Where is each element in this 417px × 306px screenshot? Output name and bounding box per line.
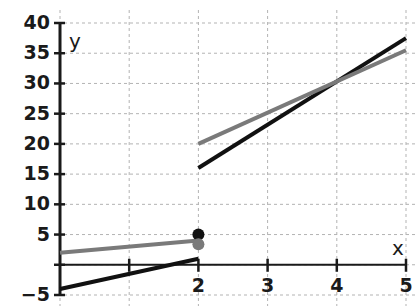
series-layer [60, 38, 406, 289]
y-tick-label: −5 [21, 285, 50, 304]
x-tick-label: 2 [183, 276, 213, 295]
y-tick-label: 20 [24, 134, 50, 153]
x-tick-label: 3 [253, 276, 283, 295]
gray-endpoint [192, 238, 204, 250]
x-tick-label: 5 [391, 276, 417, 295]
x-tick-label: 4 [322, 276, 352, 295]
y-tick-label: 10 [24, 194, 50, 213]
y-tick-label: 15 [24, 164, 50, 183]
x-axis-label: x [392, 238, 404, 258]
plot-area [0, 0, 417, 306]
black-upper [198, 38, 406, 168]
y-tick-label: 25 [24, 104, 50, 123]
axis-layer [54, 23, 406, 295]
y-tick-label: 35 [24, 43, 50, 62]
y-axis-label: y [69, 31, 81, 51]
y-tick-label: 40 [24, 13, 50, 32]
gray-upper [198, 50, 406, 144]
chart-container: −5510152025303540 2345 y x [0, 0, 417, 306]
grid-layer [58, 10, 417, 306]
y-tick-label: 5 [37, 225, 50, 244]
y-tick-label: 30 [24, 73, 50, 92]
